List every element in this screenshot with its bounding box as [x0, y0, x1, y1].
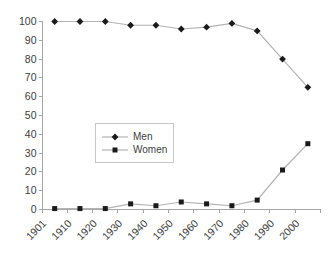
- y-tick-label: 70: [25, 71, 37, 83]
- women-marker: [204, 201, 209, 206]
- women-marker: [305, 141, 310, 146]
- men-marker: [77, 18, 84, 25]
- men-marker: [228, 20, 235, 27]
- x-tick-label: 1940: [125, 217, 150, 242]
- y-tick-label: 10: [25, 184, 37, 196]
- y-tick-label: 50: [25, 109, 37, 121]
- women-marker: [255, 198, 260, 203]
- men-marker: [178, 26, 185, 33]
- men-marker: [51, 18, 58, 25]
- legend-item-men: Men: [102, 132, 173, 142]
- y-tick-label: 40: [25, 128, 37, 140]
- x-tick-label: 1990: [251, 217, 276, 242]
- legend-label-women: Women: [133, 145, 167, 155]
- y-tick-label: 90: [25, 34, 37, 46]
- men-marker: [203, 24, 210, 31]
- x-tick-label: 2000: [277, 217, 302, 242]
- y-tick-label: 80: [25, 53, 37, 65]
- women-marker: [103, 206, 108, 211]
- women-series-sample-icon: [102, 145, 128, 155]
- men-marker: [102, 18, 109, 25]
- women-marker: [153, 203, 158, 208]
- x-tick-label: 1901: [23, 217, 48, 242]
- x-tick-label: 1960: [175, 217, 200, 242]
- women-marker: [179, 199, 184, 204]
- x-tick-label: 1950: [150, 217, 175, 242]
- x-tick-label: 1970: [201, 217, 226, 242]
- legend-item-women: Women: [102, 145, 173, 155]
- women-marker: [77, 206, 82, 211]
- y-tick-label: 60: [25, 90, 37, 102]
- women-marker: [280, 168, 285, 173]
- men-marker: [127, 22, 134, 29]
- x-tick-label: 1930: [99, 217, 124, 242]
- men-marker: [153, 22, 160, 29]
- women-series-line: [55, 144, 308, 209]
- x-tick-label: 1920: [74, 217, 99, 242]
- y-tick-label: 20: [25, 165, 37, 177]
- women-marker: [128, 201, 133, 206]
- x-tick-label: 1980: [226, 217, 251, 242]
- men-series-sample-icon: [102, 132, 128, 142]
- y-tick-label: 0: [31, 203, 37, 215]
- men-sample-marker: [112, 133, 119, 140]
- women-marker: [229, 203, 234, 208]
- women-sample-marker: [113, 147, 118, 152]
- women-marker: [52, 206, 57, 211]
- legend: Men Women: [95, 123, 174, 163]
- x-tick-label: 1910: [49, 217, 74, 242]
- legend-label-men: Men: [133, 132, 152, 142]
- y-tick-label: 30: [25, 147, 37, 159]
- y-tick-label: 100: [19, 15, 37, 27]
- line-chart: 0102030405060708090100190119101920193019…: [0, 0, 336, 258]
